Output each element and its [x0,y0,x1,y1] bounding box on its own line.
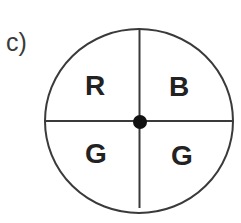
sector-bottom-left-letter: G [85,138,107,169]
spinner-diagram: R B G G [0,0,241,223]
sector-top-right-letter: B [169,71,189,102]
center-pivot-dot [133,115,147,129]
sector-top-left-letter: R [85,70,105,101]
sector-bottom-right-letter: G [171,140,193,171]
